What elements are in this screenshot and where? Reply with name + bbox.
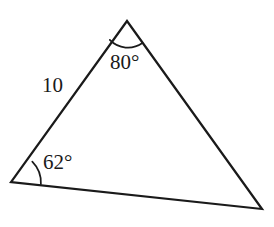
angle-label-bottom-left: 62° — [43, 152, 72, 173]
angle-label-apex: 80° — [110, 52, 139, 73]
triangle-diagram-svg — [0, 0, 274, 227]
side-length-label-left: 10 — [42, 75, 63, 96]
triangle-figure: 80° 62° 10 — [0, 0, 274, 227]
